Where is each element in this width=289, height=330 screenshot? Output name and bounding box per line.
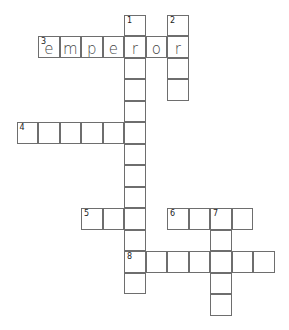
crossword-cell[interactable]: p [81, 36, 103, 58]
crossword-cell[interactable] [210, 273, 232, 295]
crossword-cell[interactable] [189, 251, 211, 273]
crossword-cell[interactable]: r [124, 36, 146, 58]
cell-letter: p [82, 40, 102, 58]
cell-letter: m [61, 40, 81, 58]
crossword-cell[interactable] [210, 294, 232, 316]
crossword-cell[interactable]: 7 [210, 208, 232, 230]
crossword-cell[interactable] [103, 208, 125, 230]
crossword-cell[interactable] [81, 122, 103, 144]
crossword-cell[interactable] [103, 122, 125, 144]
crossword-cell[interactable] [60, 122, 82, 144]
crossword-cell[interactable] [124, 101, 146, 123]
crossword-cell[interactable] [210, 251, 232, 273]
crossword-cell[interactable]: r [167, 36, 189, 58]
crossword-cell[interactable] [124, 165, 146, 187]
crossword-cell[interactable] [124, 273, 146, 295]
crossword-cell[interactable]: 6 [167, 208, 189, 230]
crossword-cell[interactable] [124, 230, 146, 252]
crossword-cell[interactable] [124, 58, 146, 80]
crossword-cell[interactable]: 2 [167, 15, 189, 37]
crossword-cell[interactable] [38, 122, 60, 144]
crossword-cell[interactable]: 3e [38, 36, 60, 58]
crossword-cell[interactable] [232, 251, 254, 273]
crossword-cell[interactable]: m [60, 36, 82, 58]
crossword-cell[interactable]: 4 [17, 122, 39, 144]
crossword-cell[interactable] [232, 208, 254, 230]
clue-number: 4 [20, 124, 25, 132]
clue-number: 7 [213, 210, 218, 218]
crossword-cell[interactable]: 8 [124, 251, 146, 273]
cell-letter: r [125, 40, 145, 58]
crossword-cell[interactable] [146, 251, 168, 273]
clue-number: 8 [127, 253, 132, 261]
crossword-cell[interactable] [124, 187, 146, 209]
crossword-cell[interactable] [167, 58, 189, 80]
cell-letter: e [104, 40, 124, 58]
clue-number: 5 [84, 210, 89, 218]
clue-number: 1 [127, 17, 132, 25]
crossword-cell[interactable]: o [146, 36, 168, 58]
crossword-cell[interactable] [124, 144, 146, 166]
crossword-cell[interactable] [124, 79, 146, 101]
cell-letter: e [39, 40, 59, 58]
crossword-cell[interactable]: 5 [81, 208, 103, 230]
cell-letter: r [168, 40, 188, 58]
crossword-cell[interactable] [189, 208, 211, 230]
crossword-cell[interactable] [167, 251, 189, 273]
crossword-cell[interactable] [253, 251, 275, 273]
crossword-cell[interactable]: e [103, 36, 125, 58]
crossword-cell[interactable] [210, 230, 232, 252]
clue-number: 2 [170, 17, 175, 25]
crossword-cell[interactable] [124, 208, 146, 230]
crossword-cell[interactable]: 1 [124, 15, 146, 37]
cell-letter: o [147, 40, 167, 58]
crossword-cell[interactable] [167, 79, 189, 101]
crossword-cell[interactable] [124, 122, 146, 144]
clue-number: 6 [170, 210, 175, 218]
